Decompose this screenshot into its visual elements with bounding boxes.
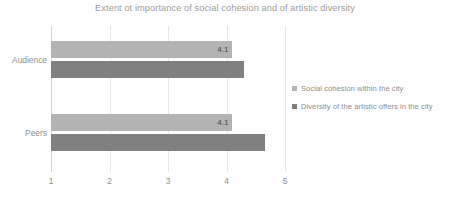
- legend-item-0[interactable]: Social cohesion within the city: [292, 84, 444, 93]
- bar-chart: Extent ot importance of social cohesion …: [0, 0, 450, 198]
- legend-swatch-icon: [292, 86, 297, 91]
- category-label-audience: Audience: [0, 55, 47, 65]
- bar-peers-series-1: [51, 134, 265, 151]
- x-tick-label: 1: [39, 176, 63, 186]
- chart-legend: Social cohesion within the cityDiversity…: [292, 84, 444, 120]
- legend-label: Diversity of the artistic offers in the …: [301, 102, 433, 111]
- chart-title: Extent ot importance of social cohesion …: [0, 3, 450, 13]
- legend-swatch-icon: [292, 104, 297, 109]
- x-tick-label: 4: [215, 176, 239, 186]
- bar-value-label: 4.1: [51, 114, 228, 131]
- legend-label: Social cohesion within the city: [301, 84, 403, 93]
- plot-area: 4.14.1: [51, 26, 285, 172]
- legend-item-1[interactable]: Diversity of the artistic offers in the …: [292, 102, 444, 111]
- category-label-peers: Peers: [0, 128, 47, 138]
- x-tick-label: 5: [273, 176, 297, 186]
- x-tick-label: 3: [156, 176, 180, 186]
- bar-value-label: 4.1: [51, 41, 228, 58]
- gridline-x-5: [285, 26, 286, 172]
- bar-audience-series-1: [51, 61, 244, 78]
- x-tick-label: 2: [98, 176, 122, 186]
